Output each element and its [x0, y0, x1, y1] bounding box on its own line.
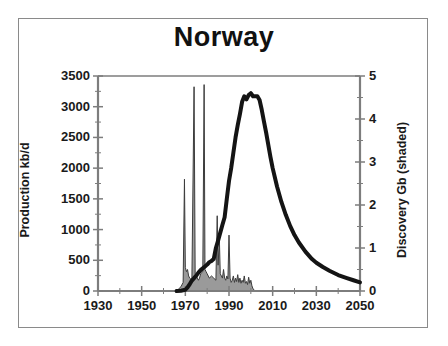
y-axis-right-tick-label: 1 [369, 240, 389, 255]
y-axis-left-tick-label: 0 [34, 283, 90, 298]
y-axis-left-tick-label: 3500 [34, 68, 90, 83]
y-axis-left-tick-label: 1500 [34, 191, 90, 206]
y-axis-left-tick-label: 500 [34, 252, 90, 267]
y-axis-left-tick-label: 2000 [34, 160, 90, 175]
discovery-area-series [177, 85, 256, 291]
y-axis-right-tick-label: 5 [369, 68, 389, 83]
x-axis-tick-label: 1990 [204, 298, 254, 313]
x-axis-tick-label: 1970 [160, 298, 210, 313]
y-axis-left-tick-label: 1000 [34, 222, 90, 237]
chart-figure: Norway Production kb/d Discovery Gb (sha… [0, 0, 448, 346]
y-axis-right-tick-label: 4 [369, 111, 389, 126]
y-axis-right-tick-label: 2 [369, 197, 389, 212]
x-axis-tick-label: 2050 [335, 298, 385, 313]
x-axis-tick-label: 1950 [117, 298, 167, 313]
y-axis-right-tick-label: 0 [369, 283, 389, 298]
y-axis-left-tick-label: 3000 [34, 99, 90, 114]
x-axis-tick-label: 2030 [291, 298, 341, 313]
x-axis-tick-label: 2010 [248, 298, 298, 313]
x-axis-tick-label: 1930 [73, 298, 123, 313]
y-axis-right-tick-label: 3 [369, 154, 389, 169]
y-axis-left-tick-label: 2500 [34, 129, 90, 144]
